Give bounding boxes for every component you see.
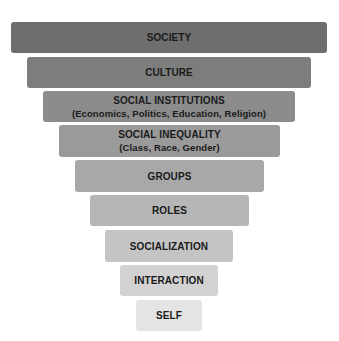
level-socialization: SOCIALIZATION [105, 230, 233, 262]
level-label: SOCIAL INEQUALITY [118, 128, 221, 141]
level-self: SELF [136, 300, 202, 331]
level-label: SOCIALIZATION [130, 240, 208, 253]
social-structure-pyramid: SOCIETY CULTURE SOCIAL INSTITUTIONS (Eco… [0, 0, 339, 341]
level-label: INTERACTION [134, 274, 203, 287]
level-groups: GROUPS [75, 160, 264, 192]
level-label: CULTURE [145, 66, 193, 79]
level-culture: CULTURE [27, 57, 311, 88]
level-sublabel: (Economics, Politics, Education, Religio… [72, 107, 266, 120]
level-interaction: INTERACTION [120, 265, 218, 296]
level-social-inequality: SOCIAL INEQUALITY (Class, Race, Gender) [59, 125, 280, 157]
level-label: SOCIAL INSTITUTIONS [113, 94, 225, 107]
level-sublabel: (Class, Race, Gender) [119, 141, 219, 154]
level-society: SOCIETY [11, 22, 327, 53]
level-roles: ROLES [90, 195, 249, 226]
level-label: SOCIETY [147, 31, 192, 44]
level-label: GROUPS [148, 170, 192, 183]
level-social-institutions: SOCIAL INSTITUTIONS (Economics, Politics… [43, 91, 295, 122]
level-label: SELF [156, 309, 182, 322]
level-label: ROLES [152, 204, 187, 217]
